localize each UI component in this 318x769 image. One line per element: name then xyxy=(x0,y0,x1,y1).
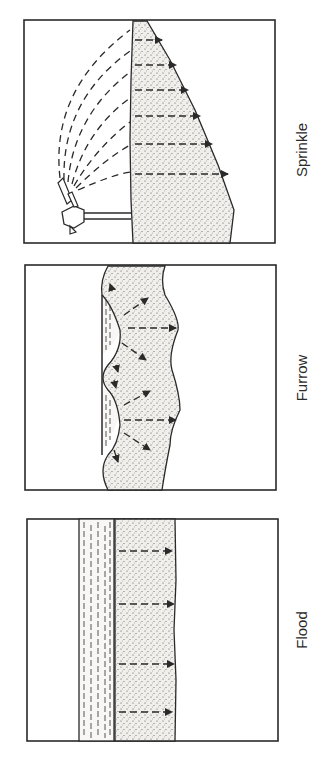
furrow-panel: Furrow xyxy=(25,265,310,490)
spray-arcs xyxy=(59,30,130,190)
sprinkle-wetted-soil xyxy=(130,21,234,243)
irrigation-methods-diagram: Sprinkle Furrow xyxy=(0,0,318,769)
flood-panel: Flood xyxy=(27,519,310,741)
sprinkle-panel: Sprinkle xyxy=(24,20,310,243)
furrow-wetted-soil xyxy=(102,266,180,490)
flood-wetted-soil xyxy=(115,519,176,741)
flood-label: Flood xyxy=(293,611,310,649)
sprinkler-icon xyxy=(58,178,131,234)
sprinkle-label: Sprinkle xyxy=(293,123,310,177)
furrow-label: Furrow xyxy=(293,354,310,401)
